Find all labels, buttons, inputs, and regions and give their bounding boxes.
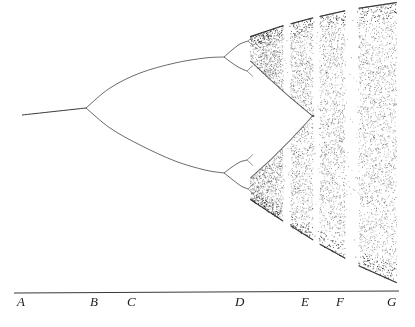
axis-label-f: F bbox=[336, 295, 344, 308]
period8-upper-1 bbox=[247, 66, 253, 72]
period8-lower-0 bbox=[248, 41, 254, 47]
branch-lower-4cycle-b bbox=[224, 173, 248, 189]
axis-label-b: B bbox=[90, 295, 98, 308]
branch-lower-2cycle bbox=[86, 108, 224, 173]
axis-label-g: G bbox=[387, 295, 396, 308]
axis-label-d: D bbox=[235, 295, 244, 308]
axis-label-a: A bbox=[17, 295, 25, 308]
branch-upper-2cycle bbox=[86, 57, 224, 108]
period8-lower-3 bbox=[248, 189, 254, 195]
period8-upper-0 bbox=[248, 36, 254, 42]
branch-lower-4cycle-a bbox=[224, 160, 247, 173]
parameter-axis-line bbox=[14, 291, 399, 293]
period8-upper-3 bbox=[248, 184, 254, 190]
period8-upper-2 bbox=[247, 155, 253, 161]
bifurcation-figure: ABCDEFG bbox=[0, 0, 415, 327]
axis-label-c: C bbox=[127, 295, 136, 308]
period8-lower-2 bbox=[247, 160, 253, 166]
axis-label-e: E bbox=[301, 295, 309, 308]
fixed-point-stem bbox=[22, 108, 86, 115]
bifurcation-curves bbox=[0, 0, 415, 327]
branch-layer bbox=[22, 36, 254, 195]
branch-upper-4cycle-a bbox=[224, 41, 248, 57]
branch-upper-4cycle-b bbox=[224, 57, 247, 71]
period8-lower-1 bbox=[247, 71, 253, 77]
